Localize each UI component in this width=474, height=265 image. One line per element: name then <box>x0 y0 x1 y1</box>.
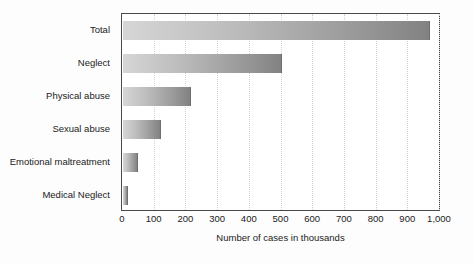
x-tick-label: 0 <box>119 213 124 225</box>
category-label: Medical Neglect <box>0 190 110 200</box>
x-tick-label: 100 <box>146 213 162 225</box>
x-tick-label: 300 <box>209 213 225 225</box>
bar <box>123 21 430 40</box>
x-tick-label: 1,000 <box>427 213 451 225</box>
x-tick-label: 400 <box>241 213 257 225</box>
bar <box>123 120 161 139</box>
category-label: Total <box>0 25 110 35</box>
bar <box>123 153 138 172</box>
x-tick-label: 700 <box>336 213 352 225</box>
bar <box>123 87 191 106</box>
x-tick-label: 800 <box>368 213 384 225</box>
bar <box>123 54 282 73</box>
category-label: Sexual abuse <box>0 124 110 134</box>
category-axis-labels: TotalNeglectPhysical abuseSexual abuseEm… <box>0 13 116 211</box>
category-label: Physical abuse <box>0 91 110 101</box>
category-label: Emotional maltreatment <box>0 157 110 167</box>
chart-page: TotalNeglectPhysical abuseSexual abuseEm… <box>0 0 474 265</box>
bar-series <box>122 14 439 210</box>
plot-area <box>121 13 440 211</box>
x-axis-tick-labels: 01002003004005006007008009001,000 <box>121 213 440 227</box>
bar <box>123 186 128 205</box>
x-axis-title: Number of cases in thousands <box>121 232 440 243</box>
x-tick-label: 500 <box>273 213 289 225</box>
category-label: Neglect <box>0 58 110 68</box>
gridline <box>439 14 441 210</box>
x-tick-label: 900 <box>399 213 415 225</box>
x-tick-label: 200 <box>177 213 193 225</box>
x-tick-label: 600 <box>304 213 320 225</box>
